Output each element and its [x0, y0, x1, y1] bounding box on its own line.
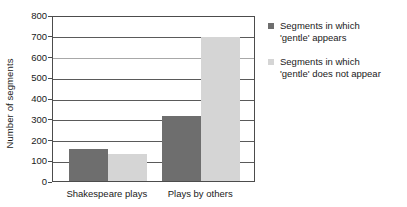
legend-label-line2: 'gentle' appears	[280, 32, 360, 44]
x-category-label: Plays by others	[140, 188, 260, 199]
y-tick-label: 200	[17, 136, 47, 146]
legend-item-gentle-appears: Segments in which 'gentle' appears	[268, 20, 407, 44]
y-tick-label: 400	[17, 94, 47, 104]
y-tick-label: 700	[17, 32, 47, 42]
legend-label-gentle-absent: Segments in which 'gentle' does not appe…	[280, 56, 381, 80]
bar-gentle-absent	[201, 37, 240, 181]
legend-label-line1: Segments in which	[280, 20, 360, 32]
y-tick-label: 800	[17, 11, 47, 21]
legend-label-line2: 'gentle' does not appear	[280, 68, 381, 80]
chart-legend: Segments in which 'gentle' appears Segme…	[268, 20, 407, 92]
y-tick-label: 600	[17, 53, 47, 63]
bar-gentle-absent	[108, 154, 147, 181]
legend-label-gentle-appears: Segments in which 'gentle' appears	[280, 20, 360, 44]
bar-gentle-appears	[69, 149, 108, 181]
y-tick-label: 500	[17, 73, 47, 83]
bar-chart-figure: Number of segments 010020030040050060070…	[0, 0, 407, 207]
bar-gentle-appears	[162, 116, 201, 181]
legend-item-gentle-absent: Segments in which 'gentle' does not appe…	[268, 56, 407, 80]
plot-area	[52, 16, 255, 182]
y-tick-label: 0	[17, 177, 47, 187]
y-tick-label: 300	[17, 115, 47, 125]
y-tick-label: 100	[17, 156, 47, 166]
legend-swatch-icon-light	[268, 59, 274, 65]
legend-label-line1: Segments in which	[280, 56, 381, 68]
legend-swatch-icon-dark	[268, 23, 274, 29]
